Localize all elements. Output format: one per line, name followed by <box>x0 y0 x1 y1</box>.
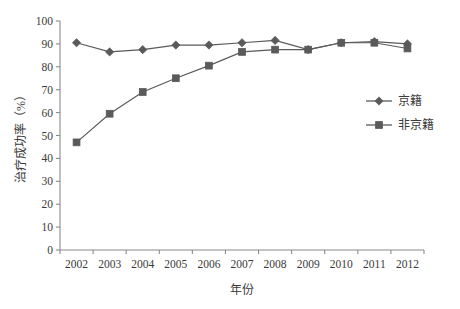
data-point-diamond <box>106 48 114 56</box>
data-point-diamond <box>72 39 80 47</box>
legend-item-2[interactable]: 非京籍 <box>366 117 434 132</box>
y-tick-label: 10 <box>42 221 54 233</box>
data-point-diamond <box>205 41 213 49</box>
y-tick-label: 80 <box>42 61 54 73</box>
x-tick-label: 2005 <box>164 258 187 270</box>
y-tick-label: 70 <box>42 84 54 96</box>
y-tick-label: 60 <box>42 107 54 119</box>
data-point-square <box>139 89 146 96</box>
x-tick-label: 2007 <box>231 258 254 270</box>
x-tick-label: 2010 <box>330 258 353 270</box>
data-point-square <box>239 49 246 56</box>
legend-label: 京籍 <box>398 93 422 108</box>
data-point-diamond <box>139 46 147 54</box>
series-2 <box>73 39 411 145</box>
y-tick-label: 30 <box>42 175 54 187</box>
data-series-group <box>72 36 411 145</box>
x-axis-title: 年份 <box>230 283 254 297</box>
data-point-square <box>73 139 80 146</box>
x-tick-group: 2002200320042005200620072008200920102011… <box>60 250 424 270</box>
data-point-square <box>172 75 179 82</box>
data-point-diamond <box>172 41 180 49</box>
data-point-square <box>376 122 383 129</box>
data-point-square <box>106 110 113 117</box>
data-point-diamond <box>238 39 246 47</box>
data-point-square <box>371 39 378 46</box>
series-line-path <box>77 43 408 143</box>
y-axis-title: 治疗成功率（%） <box>13 89 28 183</box>
chart-legend: 京籍非京籍 <box>366 93 434 132</box>
legend-label: 非京籍 <box>398 117 434 132</box>
data-point-square <box>272 46 279 53</box>
data-point-square <box>305 46 312 53</box>
y-tick-label: 50 <box>42 130 54 142</box>
y-tick-label: 40 <box>42 152 54 164</box>
x-tick-label: 2009 <box>297 258 320 270</box>
x-tick-label: 2011 <box>363 258 386 270</box>
y-tick-label: 90 <box>42 38 54 50</box>
x-tick-label: 2008 <box>264 258 287 270</box>
data-point-diamond <box>375 97 383 105</box>
data-point-diamond <box>271 36 279 44</box>
x-tick-label: 2006 <box>197 258 220 270</box>
y-tick-label: 0 <box>47 244 53 256</box>
x-tick-label: 2004 <box>131 258 154 270</box>
data-point-square <box>206 62 213 69</box>
data-point-square <box>404 45 411 52</box>
x-tick-label: 2002 <box>65 258 88 270</box>
x-tick-label: 2003 <box>98 258 121 270</box>
data-point-square <box>338 39 345 46</box>
x-tick-label: 2012 <box>396 258 419 270</box>
chart-figure: 0102030405060708090100 20022003200420052… <box>0 0 460 309</box>
line-chart-canvas: 0102030405060708090100 20022003200420052… <box>0 0 460 309</box>
y-tick-label: 100 <box>36 15 54 27</box>
legend-item-1[interactable]: 京籍 <box>366 93 422 108</box>
y-tick-label: 20 <box>42 198 54 210</box>
y-tick-group: 0102030405060708090100 <box>36 15 60 256</box>
